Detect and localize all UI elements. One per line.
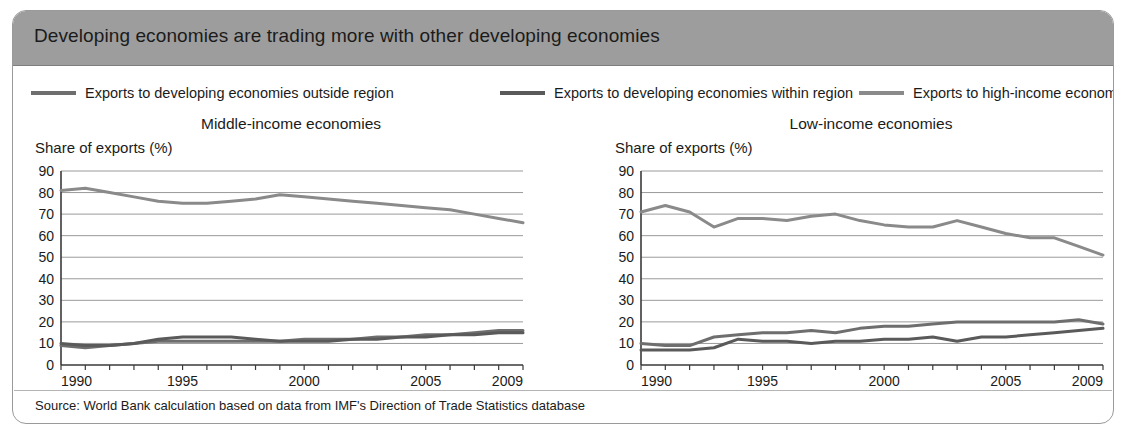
legend-item: Exports to high-income economies <box>859 81 1114 105</box>
source-note: Source: World Bank calculation based on … <box>35 398 585 413</box>
panel-title: Low-income economies <box>601 115 1114 133</box>
svg-text:2009: 2009 <box>492 373 523 389</box>
svg-text:50: 50 <box>618 249 634 265</box>
svg-text:30: 30 <box>618 292 634 308</box>
legend-swatch-icon <box>859 91 904 95</box>
legend-label: Exports to developing economies outside … <box>85 85 394 101</box>
svg-text:20: 20 <box>618 314 634 330</box>
svg-text:0: 0 <box>46 357 54 373</box>
svg-text:1995: 1995 <box>747 373 778 389</box>
svg-text:2005: 2005 <box>410 373 441 389</box>
data-series-line <box>641 320 1103 346</box>
legend-item: Exports to developing economies outside … <box>31 81 394 105</box>
legend-label: Exports to high-income economies <box>913 85 1114 101</box>
svg-text:10: 10 <box>618 335 634 351</box>
y-axis-caption: Share of exports (%) <box>615 139 753 156</box>
chart-plot: 010203040506070809019901995200020052009 <box>21 163 531 395</box>
svg-text:40: 40 <box>38 271 54 287</box>
chart-legend: Exports to developing economies outside … <box>13 81 1113 107</box>
svg-text:0: 0 <box>626 357 634 373</box>
svg-text:80: 80 <box>38 185 54 201</box>
legend-item: Exports to developing economies within r… <box>500 81 853 105</box>
svg-text:90: 90 <box>38 163 54 179</box>
data-series-line <box>641 205 1103 255</box>
svg-text:1990: 1990 <box>641 373 672 389</box>
svg-text:50: 50 <box>38 249 54 265</box>
svg-text:40: 40 <box>618 271 634 287</box>
svg-text:70: 70 <box>38 206 54 222</box>
svg-text:2005: 2005 <box>990 373 1021 389</box>
svg-text:70: 70 <box>618 206 634 222</box>
svg-text:20: 20 <box>38 314 54 330</box>
svg-text:30: 30 <box>38 292 54 308</box>
figure-title: Developing economies are trading more wi… <box>34 25 660 47</box>
chart-panel-low-income: Low-income economies Share of exports (%… <box>601 115 1114 395</box>
panel-title: Middle-income economies <box>21 115 561 133</box>
legend-swatch-icon <box>500 91 545 95</box>
svg-text:60: 60 <box>618 228 634 244</box>
chart-plot: 010203040506070809019901995200020052009 <box>601 163 1111 395</box>
y-axis-caption: Share of exports (%) <box>35 139 173 156</box>
svg-text:10: 10 <box>38 335 54 351</box>
svg-text:60: 60 <box>38 228 54 244</box>
svg-text:1990: 1990 <box>61 373 92 389</box>
legend-swatch-icon <box>31 91 76 95</box>
source-divider <box>14 390 1112 391</box>
figure-container: Developing economies are trading more wi… <box>12 10 1114 424</box>
svg-text:2000: 2000 <box>869 373 900 389</box>
svg-text:90: 90 <box>618 163 634 179</box>
figure-title-bar: Developing economies are trading more wi… <box>13 11 1113 66</box>
chart-panel-middle-income: Middle-income economies Share of exports… <box>21 115 561 395</box>
svg-text:2000: 2000 <box>289 373 320 389</box>
svg-text:1995: 1995 <box>167 373 198 389</box>
svg-text:80: 80 <box>618 185 634 201</box>
svg-text:2009: 2009 <box>1072 373 1103 389</box>
data-series-line <box>61 188 523 222</box>
legend-label: Exports to developing economies within r… <box>554 85 853 101</box>
